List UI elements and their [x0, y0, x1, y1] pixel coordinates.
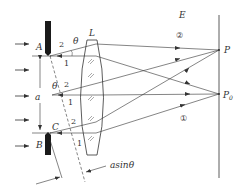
ray-label-2-top: 2 [59, 40, 64, 49]
label-L: L [88, 28, 95, 38]
ray-label-2-mid: 2 [64, 80, 69, 89]
label-A: A [35, 42, 43, 52]
theta-arc [71, 51, 72, 57]
label-theta-top: θ [73, 36, 79, 46]
asin-arrow-left [36, 177, 60, 184]
label-circled-1: ① [180, 114, 187, 123]
label-a: a [35, 92, 40, 102]
wavefront-dashed-line [50, 56, 85, 182]
ray-label-2-bot: 2 [71, 117, 76, 126]
ray-label-1-bot: 1 [77, 139, 82, 148]
ray-label-1-top: 1 [64, 59, 69, 68]
point-P [218, 49, 220, 51]
label-C: C [52, 122, 59, 132]
incident-light-arrows [15, 44, 29, 146]
label-E: E [178, 10, 186, 20]
point-P0 [218, 93, 220, 95]
diffraction-diagram: A B C L E P P0 a θ θ asinθ 2 1 2 1 2 1 ②… [0, 0, 240, 193]
ray-label-1-mid: 1 [68, 98, 73, 107]
label-theta-mid: θ [52, 81, 58, 91]
wavefront-solid-edge [50, 140, 62, 178]
label-B: B [35, 140, 43, 150]
label-P: P [223, 45, 231, 55]
label-P0: P0 [222, 90, 233, 101]
label-asin-theta: asinθ [110, 160, 135, 170]
asin-arrow [86, 166, 106, 172]
label-circled-2: ② [176, 31, 183, 40]
